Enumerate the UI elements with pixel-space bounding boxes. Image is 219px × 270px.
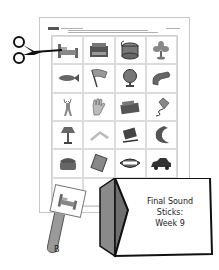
picture-cell-flag[interactable]: [83, 64, 114, 92]
picture-cell-boomerang[interactable]: [83, 121, 114, 149]
car-icon: [149, 153, 173, 173]
drum-icon: [118, 40, 142, 60]
lips-icon: [118, 153, 142, 173]
picture-cell-glove[interactable]: [146, 64, 177, 92]
picture-cell-radio[interactable]: [115, 93, 146, 121]
candy-icon: [87, 153, 111, 173]
lamp-icon: [56, 125, 80, 145]
globe-icon: [118, 68, 142, 88]
header-text-line: [68, 30, 148, 31]
moon-icon: [149, 125, 173, 145]
phone-icon: [56, 153, 80, 173]
flag-icon: [87, 68, 111, 88]
deer-icon: [56, 97, 80, 117]
folder-title: Final Sound Sticks: Week 9: [130, 196, 210, 229]
picture-cell-lips[interactable]: [115, 149, 146, 177]
header-page-number: [166, 28, 180, 29]
picture-cell-candy[interactable]: [83, 149, 114, 177]
picture-cell-book[interactable]: [115, 121, 146, 149]
fan-icon: [149, 40, 173, 60]
picture-cell-drum[interactable]: [115, 36, 146, 64]
folder-title-line1: Final Sound: [130, 196, 210, 207]
radio-icon: [118, 97, 142, 117]
picture-cell-fish[interactable]: [52, 64, 83, 92]
picture-cell-moon[interactable]: [146, 121, 177, 149]
folder-title-line3: Week 9: [130, 218, 210, 229]
scissors-icon: [12, 36, 62, 66]
boomerang-icon: [87, 125, 111, 145]
header-badge: [48, 27, 59, 30]
picture-cell-deer[interactable]: [52, 93, 83, 121]
kite-icon: [149, 97, 173, 117]
picture-cell-typewriter[interactable]: [83, 36, 114, 64]
picture-cell-lamp[interactable]: [52, 121, 83, 149]
fish-icon: [56, 68, 80, 88]
header-text-line: [61, 28, 83, 29]
picture-cell-phone[interactable]: [52, 149, 83, 177]
bed-icon: [55, 190, 80, 212]
hand-icon: [87, 97, 111, 117]
book-icon: [118, 125, 142, 145]
picture-cell-car[interactable]: [146, 149, 177, 177]
picture-cell-hand[interactable]: [83, 93, 114, 121]
sound-stick-letter: B: [54, 245, 60, 254]
glove-icon: [149, 68, 173, 88]
folder-title-line2: Sticks:: [130, 207, 210, 218]
picture-cell-fan[interactable]: [146, 36, 177, 64]
header-text-line: [68, 32, 158, 33]
picture-cell-globe[interactable]: [115, 64, 146, 92]
typewriter-icon: [87, 40, 111, 60]
picture-cell-kite[interactable]: [146, 93, 177, 121]
